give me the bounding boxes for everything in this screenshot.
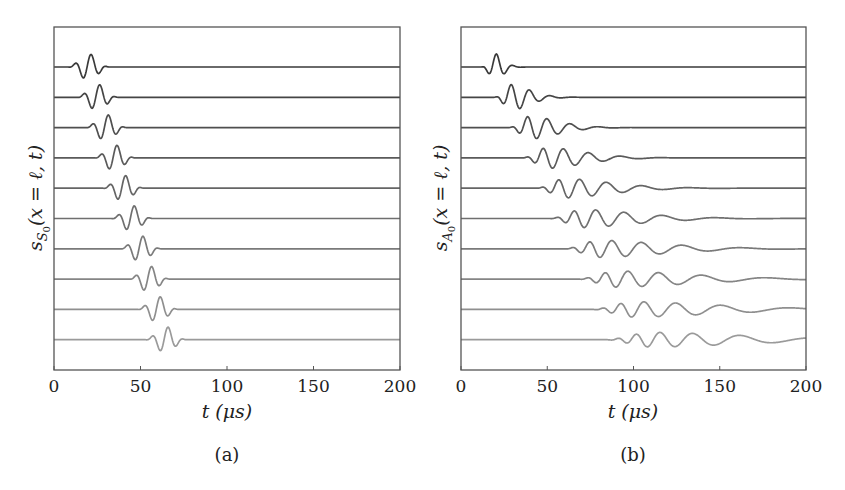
svg-text:sS0(x = ℓ, t): sS0(x = ℓ, t) bbox=[24, 145, 52, 251]
panel-b-y-label: sA0(x = ℓ, t) bbox=[429, 145, 457, 252]
panel-a-x-label: t (μs) bbox=[202, 400, 253, 422]
signal-trace bbox=[54, 115, 400, 138]
panel-a-plot-frame bbox=[54, 27, 400, 370]
x-tick-label: 50 bbox=[130, 376, 152, 396]
signal-trace bbox=[54, 54, 400, 77]
x-tick-label: 0 bbox=[49, 376, 60, 396]
signal-trace bbox=[461, 85, 806, 109]
x-tick-label: 150 bbox=[297, 376, 329, 396]
panel-b-caption: (b) bbox=[620, 444, 646, 465]
x-tick-label: 150 bbox=[704, 376, 736, 396]
signal-trace bbox=[461, 271, 806, 287]
x-tick-label: 200 bbox=[384, 376, 416, 396]
x-tick-label: 200 bbox=[790, 376, 822, 396]
signal-trace bbox=[54, 267, 400, 290]
x-tick-label: 100 bbox=[211, 376, 243, 396]
panel-a-caption: (a) bbox=[215, 444, 240, 465]
signal-trace bbox=[461, 54, 806, 74]
signal-trace bbox=[461, 117, 806, 139]
signal-trace bbox=[461, 332, 806, 346]
figure: 050100150200 t (μs) (a) sS0(x = ℓ, t) 05… bbox=[0, 0, 845, 490]
x-tick-label: 100 bbox=[617, 376, 649, 396]
panel-a-traces bbox=[54, 54, 400, 350]
panel-a-chart: 050100150200 t (μs) (a) sS0(x = ℓ, t) bbox=[24, 27, 416, 465]
svg-text:sA0(x = ℓ, t): sA0(x = ℓ, t) bbox=[429, 145, 457, 252]
panel-b-chart: 050100150200 t (μs) (b) sA0(x = ℓ, t) bbox=[429, 27, 822, 465]
signal-trace bbox=[54, 85, 400, 108]
panel-b-plot-frame bbox=[461, 27, 806, 370]
signal-trace bbox=[54, 236, 400, 259]
signal-trace bbox=[461, 302, 806, 317]
signal-trace bbox=[54, 176, 400, 199]
signal-trace bbox=[54, 327, 400, 350]
x-tick-label: 0 bbox=[456, 376, 467, 396]
signal-trace bbox=[461, 148, 806, 168]
signal-trace bbox=[54, 297, 400, 320]
panel-b-traces bbox=[461, 54, 806, 347]
panel-a-y-label: sS0(x = ℓ, t) bbox=[24, 145, 52, 251]
signal-trace bbox=[54, 206, 400, 229]
signal-trace bbox=[461, 179, 806, 198]
signal-trace bbox=[461, 210, 806, 228]
panel-b-x-label: t (μs) bbox=[608, 400, 659, 422]
signal-trace bbox=[461, 241, 806, 258]
signal-trace bbox=[54, 145, 400, 168]
x-tick-label: 50 bbox=[536, 376, 558, 396]
